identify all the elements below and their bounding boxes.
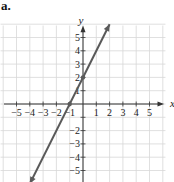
- x-tick-label: −5: [11, 107, 22, 118]
- y-tick-label: −4: [69, 152, 80, 163]
- y-tick-label: 2: [75, 72, 80, 83]
- x-axis-label: x: [169, 97, 174, 109]
- x-tick-label: 4: [134, 107, 139, 118]
- y-axis-label: y: [78, 14, 84, 26]
- y-tick-label: −3: [69, 138, 80, 149]
- x-tick-label: −3: [38, 107, 49, 118]
- y-tick-label: 3: [75, 59, 80, 70]
- y-tick-label: 4: [75, 45, 80, 56]
- y-tick-label: 5: [75, 32, 80, 43]
- x-tick-label: −4: [24, 107, 35, 118]
- x-tick-label: −2: [51, 107, 62, 118]
- coordinate-plane: −5−4−3−2−112345−5−4−3−212345xy: [0, 0, 174, 182]
- x-tick-label: 2: [107, 107, 112, 118]
- x-tick-label: 5: [147, 107, 152, 118]
- y-axis-arrow-icon: [81, 26, 86, 33]
- x-tick-label: 3: [120, 107, 125, 118]
- data-point: [81, 75, 85, 79]
- x-tick-label: 1: [94, 107, 99, 118]
- data-point: [68, 102, 72, 106]
- y-tick-label: −2: [69, 125, 80, 136]
- y-tick-label: −5: [69, 165, 80, 176]
